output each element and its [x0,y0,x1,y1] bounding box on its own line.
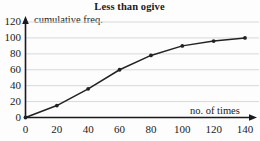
gridlines [26,22,260,102]
y-tick-label: 0 [0,111,21,123]
y-tick-label: 20 [0,95,21,107]
x-tick-label: 100 [170,123,194,135]
data-point [55,104,59,108]
y-axis-arrow-icon [22,16,29,24]
x-axis-arrow-icon [249,114,257,121]
x-tick-label: 20 [45,123,69,135]
data-point [149,54,153,58]
y-tick-label: 100 [0,31,21,43]
data-point [180,44,184,48]
x-tick-label: 120 [202,123,226,135]
y-tick-label: 40 [0,79,21,91]
plot-area [0,0,259,141]
x-tick-label: 140 [233,123,257,135]
data-point-markers [24,36,247,119]
ogive-chart: Less than ogive cumulative freq. no. of … [0,0,259,141]
x-tick-label: 40 [76,123,100,135]
y-tick-label: 60 [0,63,21,75]
x-tick-label: 60 [108,123,132,135]
data-point [24,116,28,120]
data-point [86,87,90,91]
data-point [118,68,122,72]
data-point [212,39,216,43]
x-tick-label: 80 [139,123,163,135]
x-tick-label: 0 [14,123,38,135]
y-tick-label: 120 [0,15,21,27]
y-tick-label: 80 [0,47,21,59]
data-point [243,36,247,40]
